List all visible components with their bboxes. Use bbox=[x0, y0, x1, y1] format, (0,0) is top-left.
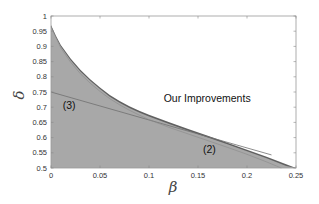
chart: 00.050.10.150.20.25 0.50.550.60.650.70.7… bbox=[0, 0, 319, 204]
annotation-label: (3) bbox=[63, 99, 76, 111]
x-tick-label: 0.05 bbox=[93, 171, 108, 180]
y-tick-label: 0.65 bbox=[32, 118, 47, 127]
y-tick-label: 0.6 bbox=[37, 133, 47, 142]
x-axis-label: β bbox=[168, 178, 178, 196]
x-tick-label: 0.2 bbox=[242, 171, 252, 180]
annotation-label: Our Improvements bbox=[164, 92, 251, 104]
x-tick-label: 0 bbox=[49, 171, 53, 180]
y-axis-label: δ bbox=[10, 90, 28, 99]
y-tick-label: 0.55 bbox=[32, 148, 47, 157]
x-tick-label: 0.1 bbox=[144, 171, 154, 180]
y-tick-label: 1 bbox=[43, 12, 47, 21]
x-tick-label: 0.15 bbox=[191, 171, 206, 180]
y-tick-label: 0.75 bbox=[32, 88, 47, 97]
y-tick-label: 0.85 bbox=[32, 57, 47, 66]
y-tick-label: 0.9 bbox=[37, 42, 47, 51]
y-tick-label: 0.5 bbox=[37, 164, 47, 173]
y-tick-label: 0.7 bbox=[37, 103, 47, 112]
y-tick-label: 0.95 bbox=[32, 27, 47, 36]
x-tick-label: 0.25 bbox=[289, 171, 304, 180]
annotation-label: (2) bbox=[203, 143, 216, 155]
y-tick-label: 0.8 bbox=[37, 72, 47, 81]
